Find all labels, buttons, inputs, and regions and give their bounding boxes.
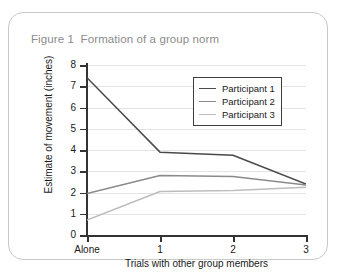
x-axis-tick — [306, 235, 308, 242]
y-axis-tick — [80, 86, 86, 88]
figure-title: Figure 1 Formation of a group norm — [31, 33, 219, 45]
x-axis-tick — [233, 235, 235, 242]
y-axis-title: Estimate of movement (inches) — [43, 40, 54, 210]
y-axis-tick-label: 6 — [61, 102, 76, 113]
x-axis-tick — [87, 235, 89, 242]
y-axis-tick — [80, 171, 86, 173]
y-axis-tick — [80, 214, 86, 216]
y-axis-tick-label: 3 — [61, 165, 76, 176]
y-axis-tick-label: 1 — [61, 208, 76, 219]
y-axis-tick-label: 4 — [61, 144, 76, 155]
y-axis-tick — [80, 150, 86, 152]
y-axis-tick-label: 0 — [61, 229, 76, 240]
y-axis-tick — [80, 193, 86, 195]
figure-card: Figure 1 Formation of a group norm 01234… — [8, 12, 328, 260]
legend-label: Participant 3 — [222, 109, 275, 120]
legend-label: Participant 2 — [222, 96, 275, 107]
x-axis-title: Trials with other group members — [87, 258, 306, 269]
y-axis-tick — [80, 65, 86, 67]
y-axis-tick — [80, 235, 86, 237]
legend-label: Participant 1 — [222, 83, 275, 94]
y-axis-tick-label: 8 — [61, 59, 76, 70]
y-axis-tick-label: 5 — [61, 123, 76, 134]
y-axis-tick — [80, 108, 86, 110]
y-axis-tick-label: 2 — [61, 187, 76, 198]
x-axis-line — [86, 235, 307, 237]
x-axis-tick-label: Alone — [74, 244, 100, 255]
chart-legend: Participant 1Participant 2Participant 3 — [193, 77, 282, 126]
legend-item: Participant 1 — [199, 82, 275, 95]
legend-swatch-icon — [199, 101, 216, 102]
series-line — [87, 187, 306, 220]
legend-swatch-icon — [199, 114, 216, 115]
x-axis-tick — [160, 235, 162, 242]
x-axis-tick-label: 3 — [303, 244, 309, 255]
legend-item: Participant 3 — [199, 108, 275, 121]
legend-item: Participant 2 — [199, 95, 275, 108]
x-axis-tick-label: 1 — [157, 244, 163, 255]
y-axis-tick-label: 7 — [61, 80, 76, 91]
x-axis-tick-label: 2 — [230, 244, 236, 255]
y-axis-tick — [80, 129, 86, 131]
legend-swatch-icon — [199, 88, 216, 89]
